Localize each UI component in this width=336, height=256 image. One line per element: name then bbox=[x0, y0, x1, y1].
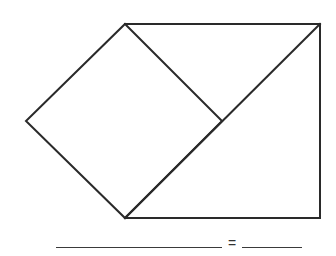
left-answer-blank[interactable] bbox=[56, 247, 222, 248]
equals-sign: = bbox=[226, 236, 238, 250]
square-on-diagonal bbox=[26, 24, 222, 218]
geometry-diagram bbox=[0, 0, 336, 256]
right-answer-blank[interactable] bbox=[242, 247, 302, 248]
